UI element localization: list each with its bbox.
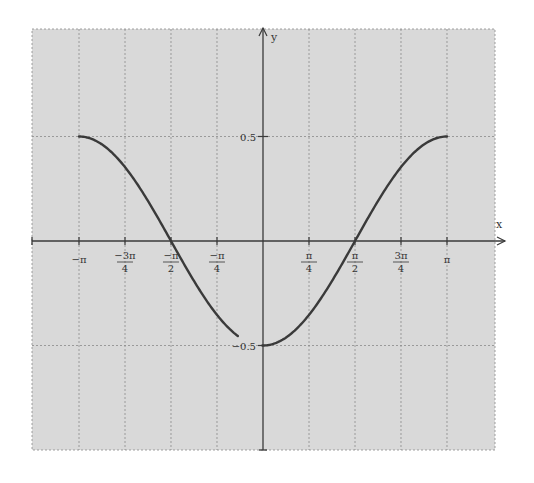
x-tick-label-denominator: 4 [306,263,312,274]
x-tick-label-numerator: π [352,250,359,261]
x-tick-label: −π [72,254,87,265]
x-tick-label-denominator: 4 [214,263,220,274]
x-tick-label-denominator: 2 [168,263,174,274]
x-tick-label: π [444,254,451,265]
x-tick-label-denominator: 4 [398,263,404,274]
y-axis-label: y [270,31,278,44]
x-tick-label-denominator: 2 [352,263,358,274]
x-tick-label-denominator: 4 [122,263,128,274]
x-axis-label: x [496,218,503,231]
y-tick-label: 0.5 [240,132,256,143]
chart: xy−π−3π4−π2−π4π4π23π4π0.5−0.5 [0,0,534,483]
x-tick-label-numerator: 3π [395,250,408,261]
x-tick-label-numerator: π [306,250,313,261]
x-tick-label-numerator: −π [164,250,179,261]
x-tick-label-numerator: −3π [114,250,136,261]
y-tick-label: −0.5 [232,341,256,352]
x-tick-label-numerator: −π [210,250,225,261]
